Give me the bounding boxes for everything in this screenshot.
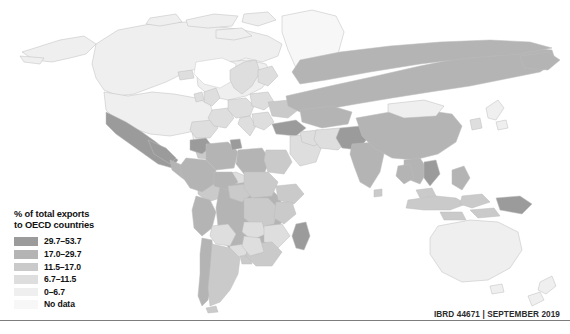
legend-row: 29.7–53.7 — [14, 235, 94, 248]
legend-swatch — [14, 275, 38, 284]
legend-row: 17.0–29.7 — [14, 248, 94, 261]
legend-row: 11.5–17.0 — [14, 261, 94, 274]
legend-rows: 29.7–53.717.0–29.711.5–17.06.7–11.50–6.7… — [14, 235, 94, 311]
legend-title: % of total exports to OECD countries — [14, 209, 94, 231]
legend-row: 0–6.7 — [14, 286, 94, 299]
legend-swatch — [14, 237, 38, 246]
map-credit: IBRD 44671 | SEPTEMBER 2019 — [434, 310, 560, 319]
legend-swatch — [14, 263, 38, 272]
legend-swatch — [14, 288, 38, 297]
legend-label: 6.7–11.5 — [44, 275, 76, 284]
legend-label: No data — [44, 300, 75, 309]
legend-swatch — [14, 250, 38, 259]
legend-label: 29.7–53.7 — [44, 237, 81, 246]
legend-label: 11.5–17.0 — [44, 263, 81, 272]
legend-label: 17.0–29.7 — [44, 250, 81, 259]
map-legend: % of total exports to OECD countries 29.… — [14, 209, 94, 311]
footer-divider — [0, 320, 570, 321]
legend-label: 0–6.7 — [44, 288, 65, 297]
world-choropleth-map: .cy{stroke:#bdbdbd;stroke-width:0.5;stro… — [0, 0, 570, 334]
legend-row: 6.7–11.5 — [14, 273, 94, 286]
legend-row: No data — [14, 298, 94, 311]
legend-swatch — [14, 300, 38, 309]
